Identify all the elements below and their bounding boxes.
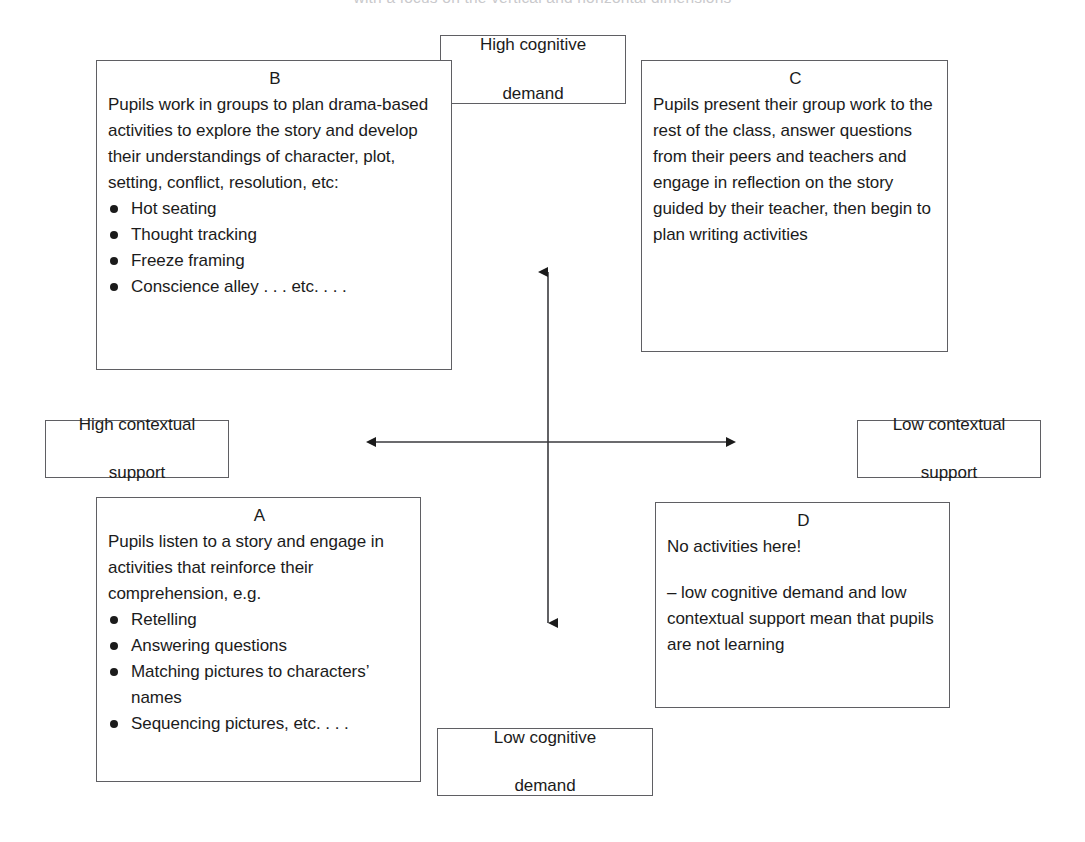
list-item-label: Conscience alley . . . etc. . . . xyxy=(131,277,347,296)
axis-label-line1: High cognitive xyxy=(480,33,586,57)
list-item: Freeze framing xyxy=(108,248,442,274)
quadrant-body-d: No activities here! – low cognitive dema… xyxy=(667,534,940,658)
list-item: Hot seating xyxy=(108,196,442,222)
axis-label-high-contextual-support: High contextual support xyxy=(45,420,229,478)
quadrant-body-b: Pupils work in groups to plan drama-base… xyxy=(108,92,442,300)
quadrant-paragraph: No activities here! xyxy=(667,534,940,560)
quadrant-box-b: B Pupils work in groups to plan drama-ba… xyxy=(96,60,452,370)
list-item-label: Hot seating xyxy=(131,199,216,218)
list-item-label: Matching pictures to characters’ names xyxy=(131,662,369,707)
bullet-dot-icon xyxy=(110,231,118,239)
axis-label-line2: demand xyxy=(494,774,596,798)
axis-label-line2: support xyxy=(893,461,1006,485)
quadrant-paragraph: Pupils work in groups to plan drama-base… xyxy=(108,92,442,196)
axis-label-line1: Low cognitive xyxy=(494,726,596,750)
cropped-caption-remnant: with a focus on the vertical and horizon… xyxy=(0,0,1085,7)
quadrant-box-a: A Pupils listen to a story and engage in… xyxy=(96,497,421,782)
quadrant-box-d: D No activities here! – low cognitive de… xyxy=(655,502,950,708)
bullet-dot-icon xyxy=(110,720,118,728)
quadrant-body-a: Pupils listen to a story and engage in a… xyxy=(108,529,411,737)
bullet-dot-icon xyxy=(110,668,118,676)
quadrant-box-c: C Pupils present their group work to the… xyxy=(641,60,948,352)
bullet-dot-icon xyxy=(110,205,118,213)
list-item-label: Answering questions xyxy=(131,636,287,655)
list-item: Thought tracking xyxy=(108,222,442,248)
list-item-label: Sequencing pictures, etc. . . . xyxy=(131,714,349,733)
list-item-label: Freeze framing xyxy=(131,251,245,270)
list-item-label: Retelling xyxy=(131,610,197,629)
list-item: Matching pictures to characters’ names xyxy=(108,659,411,711)
list-item: Answering questions xyxy=(108,633,411,659)
bullet-dot-icon xyxy=(110,642,118,650)
axis-label-low-contextual-support: Low contextual support xyxy=(857,420,1041,478)
bullet-dot-icon xyxy=(110,616,118,624)
quadrant-letter-c: C xyxy=(653,67,938,91)
quadrant-letter-d: D xyxy=(667,509,940,533)
axis-label-line1: Low contextual xyxy=(893,413,1006,437)
quadrant-letter-b: B xyxy=(108,67,442,91)
list-item: Sequencing pictures, etc. . . . xyxy=(108,711,411,737)
quadrant-paragraph: Pupils present their group work to the r… xyxy=(653,92,938,248)
quadrant-paragraph: – low cognitive demand and low contextua… xyxy=(667,580,940,658)
axis-label-low-cognitive-demand: Low cognitive demand xyxy=(437,728,653,796)
bullet-dot-icon xyxy=(110,283,118,291)
axis-label-line2: support xyxy=(79,461,195,485)
axis-label-high-cognitive-demand: High cognitive demand xyxy=(440,35,626,104)
bullet-dot-icon xyxy=(110,257,118,265)
quadrant-paragraph: Pupils listen to a story and engage in a… xyxy=(108,529,411,607)
list-item: Retelling xyxy=(108,607,411,633)
diagram-canvas: with a focus on the vertical and horizon… xyxy=(0,0,1085,842)
axis-label-line1: High contextual xyxy=(79,413,195,437)
paragraph-spacer xyxy=(667,560,940,580)
quadrant-bullet-list-a: Retelling Answering questions Matching p… xyxy=(108,607,411,737)
axis-label-line2: demand xyxy=(480,82,586,106)
quadrant-letter-a: A xyxy=(108,504,411,528)
quadrant-body-c: Pupils present their group work to the r… xyxy=(653,92,938,248)
list-item-label: Thought tracking xyxy=(131,225,257,244)
list-item: Conscience alley . . . etc. . . . xyxy=(108,274,442,300)
quadrant-bullet-list-b: Hot seating Thought tracking Freeze fram… xyxy=(108,196,442,300)
